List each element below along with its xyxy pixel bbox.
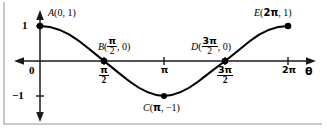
fraction-denominator: 2 <box>202 47 218 57</box>
fraction-pi-over-2: π 2 <box>99 65 109 86</box>
x-tick-label-3pi-over-2: 3π 2 <box>214 65 236 86</box>
x-tick-label-2pi: 2π <box>280 65 298 75</box>
fraction-denominator: 2 <box>107 47 117 57</box>
point-b-fraction: π2 <box>107 36 117 57</box>
point-label-e: E(2π, 1) <box>254 8 292 18</box>
y-axis-bottom-arrowhead <box>36 112 44 122</box>
point-label-a: A(0, 1) <box>48 8 76 18</box>
x-tick-label-pi-over-2: π 2 <box>96 65 112 86</box>
fraction-denominator: 2 <box>99 76 109 86</box>
y-axis-label-negative-one: −1 <box>12 90 24 101</box>
origin-label: 0 <box>29 65 35 76</box>
y-axis-top-arrowhead <box>36 10 44 20</box>
point-label-d: D(3π2, 0) <box>191 36 231 57</box>
fraction-denominator: 2 <box>217 76 233 86</box>
point-coords-a: (0, 1) <box>54 7 76 18</box>
point-c-y: −1 <box>166 102 177 113</box>
x-axis-right-arrowhead <box>306 57 316 65</box>
x-tick-label-pi: π <box>159 65 170 75</box>
point-e-x: 2π <box>263 7 278 18</box>
point-name-c: C <box>143 102 150 113</box>
x-axis-variable-label: θ <box>305 66 313 77</box>
cosine-graph-figure: 1 −1 0 θ π 2 π 3π 2 2π A(0, 1) B(π2, 0) … <box>0 0 327 136</box>
point-marker-c <box>161 93 167 99</box>
point-d-fraction: 3π2 <box>202 36 218 57</box>
y-axis-label-one: 1 <box>22 20 28 31</box>
point-label-c: C(π, −1) <box>143 103 180 113</box>
point-marker-e <box>285 23 292 30</box>
point-marker-a <box>37 23 44 30</box>
point-c-x: π <box>153 102 161 113</box>
point-label-b: B(π2, 0) <box>98 36 130 57</box>
fraction-3pi-over-2: 3π 2 <box>217 65 233 86</box>
x-axis-left-arrowhead <box>14 57 24 65</box>
